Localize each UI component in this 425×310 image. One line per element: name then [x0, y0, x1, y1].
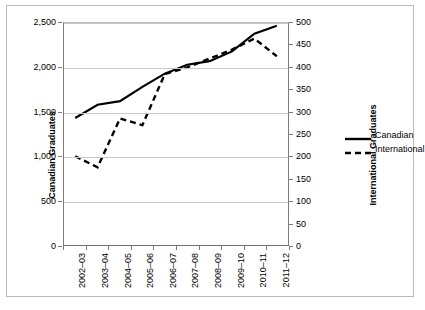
y-axis-right-tick-mark	[289, 156, 293, 157]
x-axis-category-label: 2004–05	[124, 253, 133, 288]
y-axis-left-tick-mark	[58, 156, 62, 157]
x-axis-tick-mark	[86, 246, 87, 250]
x-axis-category-label: 2008–09	[214, 253, 223, 288]
y-axis-right: 050100150200250300350400450500	[289, 14, 335, 254]
chart-legend: CanadianInternational	[345, 128, 425, 156]
y-axis-right-tick-label: 300	[296, 107, 311, 116]
plot-area	[63, 22, 289, 246]
x-axis-category-label: 2005–06	[146, 253, 155, 288]
y-axis-right-tick-label: 350	[296, 85, 311, 94]
y-axis-left-tick-mark	[58, 201, 62, 202]
y-axis-left-tick-mark	[58, 246, 62, 247]
x-axis-tick-mark	[108, 246, 109, 250]
legend-label: Canadian	[375, 131, 414, 140]
legend-swatch-solid	[345, 130, 371, 140]
x-axis-tick-mark	[266, 246, 267, 250]
x-axis: 2002–032003–042004–052005–062006–072007–…	[63, 246, 289, 306]
y-axis-right-tick-mark	[289, 179, 293, 180]
x-axis-tick-mark	[221, 246, 222, 250]
y-axis-right-tick-mark	[289, 67, 293, 68]
x-axis-category-label: 2002–03	[78, 253, 87, 288]
y-axis-right-tick-mark	[289, 224, 293, 225]
y-axis-right-tick-mark	[289, 134, 293, 135]
legend-swatch-dashed	[345, 144, 371, 154]
x-axis-tick-mark	[289, 246, 290, 250]
gridline	[64, 157, 288, 158]
x-axis-tick-mark	[131, 246, 132, 250]
y-axis-right-tick-label: 150	[296, 174, 311, 183]
x-axis-category-label: 2009–10	[237, 253, 246, 288]
y-axis-right-tick-label: 450	[296, 40, 311, 49]
x-axis-tick-mark	[63, 246, 64, 250]
y-axis-right-tick-mark	[289, 89, 293, 90]
x-axis-category-label: 2006–07	[169, 253, 178, 288]
y-axis-right-tick-label: 400	[296, 62, 311, 71]
x-axis-tick-mark	[244, 246, 245, 250]
y-axis-right-tick-label: 200	[296, 152, 311, 161]
y-axis-right-tick-label: 0	[296, 242, 301, 251]
y-axis-left-tick-mark	[58, 112, 62, 113]
gridline	[64, 202, 288, 203]
gridline	[64, 68, 288, 69]
y-axis-right-tick-label: 50	[296, 219, 306, 228]
x-axis-tick-mark	[176, 246, 177, 250]
y-axis-right-tick-mark	[289, 22, 293, 23]
y-axis-left-tick-mark	[58, 67, 62, 68]
y-axis-right-tick-mark	[289, 201, 293, 202]
x-axis-category-label: 2007–08	[191, 253, 200, 288]
x-axis-tick-mark	[199, 246, 200, 250]
x-axis-tick-mark	[153, 246, 154, 250]
gridline	[64, 113, 288, 114]
x-axis-category-label: 2011–12	[282, 253, 291, 287]
x-axis-category-label: 2010–11	[259, 253, 268, 287]
y-axis-right-tick-label: 500	[296, 18, 311, 27]
y-axis-left-title: Canadian Graduates	[47, 111, 57, 199]
y-axis-right-tick-label: 250	[296, 130, 311, 139]
legend-item: Canadian	[345, 128, 425, 142]
y-axis-right-tick-mark	[289, 44, 293, 45]
y-axis-left-tick-label: 2,500	[33, 18, 56, 27]
legend-label: International	[375, 145, 425, 154]
y-axis-right-tick-mark	[289, 112, 293, 113]
y-axis-left-tick-label: 2,000	[33, 62, 56, 71]
gridline	[64, 23, 288, 24]
chart-series-svg	[64, 23, 288, 245]
x-axis-category-label: 2003–04	[101, 253, 110, 288]
legend-item: International	[345, 142, 425, 156]
y-axis-left-tick-mark	[58, 22, 62, 23]
y-axis-left-tick-label: 0	[51, 242, 56, 251]
y-axis-right-tick-label: 100	[296, 197, 311, 206]
